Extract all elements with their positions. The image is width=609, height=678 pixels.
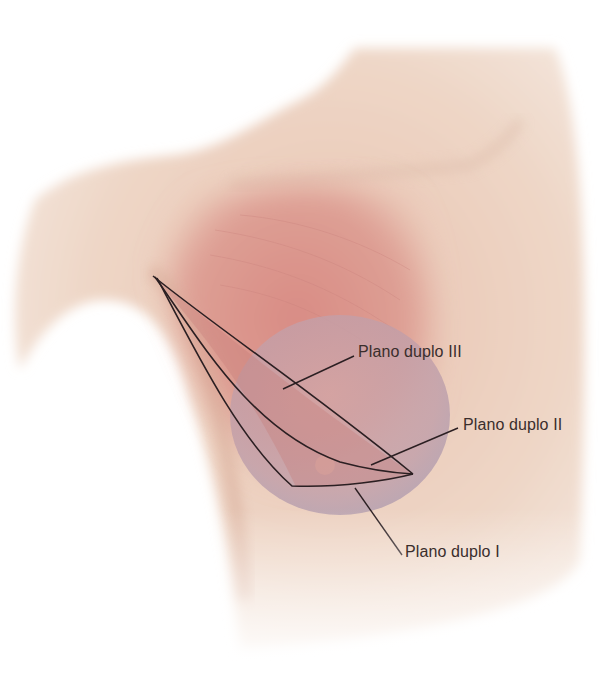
label-plano-duplo-iii: Plano duplo III <box>358 343 462 361</box>
bottom-fade <box>0 0 609 678</box>
breast-dual-plane-diagram <box>0 0 609 678</box>
label-plano-duplo-ii: Plano duplo II <box>463 416 562 434</box>
label-plano-duplo-i: Plano duplo I <box>405 543 500 561</box>
anatomical-illustration: Plano duplo III Plano duplo II Plano dup… <box>0 0 609 678</box>
